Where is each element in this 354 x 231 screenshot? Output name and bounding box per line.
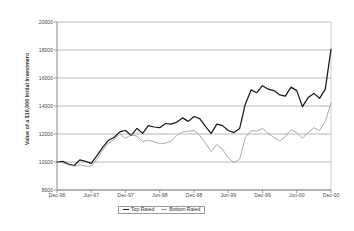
x-tick-label: Dec-00 [323,192,339,198]
x-tick-label: Jun-97 [83,192,99,198]
chart-legend: Top RatedBottom Rated [118,206,205,214]
x-axis-tick-labels: Dec-96Jun-97Dec-97Jun-98Dec-98Jun-99Dec-… [0,192,354,206]
y-tick-label: 14000 [23,103,53,109]
legend-item: Top Rated [123,207,154,212]
y-tick-label: 16000 [23,75,53,81]
x-tick-label: Dec-96 [49,192,65,198]
gridlines [54,22,331,190]
legend-swatch-icon [123,209,129,210]
x-tick-label: Jun-99 [220,192,236,198]
line-chart: Value of a $10,000 Initial Investment 80… [0,0,354,231]
y-tick-label: 18000 [23,47,53,53]
legend-swatch-icon [161,209,167,210]
x-tick-label: Jun-00 [289,192,305,198]
x-tick-label: Dec-98 [186,192,202,198]
x-tick-label: Jun-98 [152,192,168,198]
x-tick-label: Dec-99 [254,192,270,198]
series-line-bottom-rated [57,103,331,166]
series-line-top-rated [57,49,331,165]
y-tick-label: 10000 [23,159,53,165]
x-tick-label: Dec-97 [117,192,133,198]
legend-label: Top Rated [131,207,154,212]
legend-item: Bottom Rated [161,207,200,212]
data-series [57,49,331,166]
legend-label: Bottom Rated [169,207,200,212]
y-tick-label: 12000 [23,131,53,137]
y-tick-label: 20000 [23,19,53,25]
